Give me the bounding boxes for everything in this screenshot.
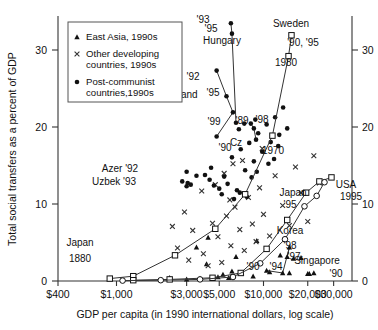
annotation-label: '94 xyxy=(269,261,282,272)
annotation-label: '90 xyxy=(246,261,259,272)
data-point xyxy=(180,179,185,184)
data-point xyxy=(273,173,278,178)
data-point xyxy=(249,121,254,126)
y-tick-label-30: 30 xyxy=(35,44,47,56)
data-point xyxy=(120,278,126,284)
y-tick-label-10: 10 xyxy=(35,198,47,210)
data-point xyxy=(278,253,283,258)
chart-svg: 0 10 20 30 0 10 20 30 $400$1,000$3,000$5… xyxy=(0,0,378,330)
data-point xyxy=(230,155,235,160)
data-point xyxy=(267,234,272,239)
data-point xyxy=(216,234,221,239)
annotation-label: '98 xyxy=(255,114,268,125)
legend-label-east-asia: East Asia, 1990s xyxy=(86,31,158,42)
data-point xyxy=(227,197,232,202)
y-axis-ticks-right: 0 10 20 30 xyxy=(352,44,374,287)
y-tick-right-label-20: 20 xyxy=(362,121,374,133)
y-tick-label-20: 20 xyxy=(35,121,47,133)
y-axis-ticks-left: 0 10 20 30 xyxy=(35,44,58,287)
data-point xyxy=(185,181,190,186)
x-tick-label-4: $10,000 xyxy=(245,288,283,300)
legend-label-other-developing-2: countries, 1990s xyxy=(86,59,157,70)
annotation-label: Sweden xyxy=(273,18,309,29)
data-point xyxy=(257,185,262,190)
annotation-label: '99 xyxy=(207,116,220,127)
annotation-label: '89 xyxy=(235,115,248,126)
data-point xyxy=(231,161,236,166)
data-point xyxy=(240,158,245,163)
data-point xyxy=(158,277,164,283)
annotation-label: Hungary xyxy=(203,35,241,46)
data-point xyxy=(214,68,219,73)
data-point xyxy=(229,269,234,274)
annotation-label: USA xyxy=(336,179,357,190)
annotation-label: '92 xyxy=(186,71,199,82)
data-point xyxy=(293,165,298,170)
y-tick-right-label-10: 10 xyxy=(362,198,374,210)
annotation-label: Uzbek '93 xyxy=(92,176,137,187)
data-point xyxy=(305,219,310,224)
data-point xyxy=(214,134,219,139)
annotation-label: 1980 xyxy=(275,57,298,68)
x-axis-ticks: $400$1,000$3,000$5,000$10,000$20,000$30,… xyxy=(46,281,352,300)
annotation-label: Azer '92 xyxy=(102,163,139,174)
data-point xyxy=(256,131,261,136)
data-point xyxy=(317,179,322,184)
x-tick-label-6: $30,000 xyxy=(315,288,353,300)
data-point xyxy=(311,270,316,275)
data-point xyxy=(252,159,257,164)
annotation-label: Japan xyxy=(66,237,93,248)
data-point xyxy=(237,127,242,132)
data-point xyxy=(107,276,112,281)
data-point xyxy=(311,153,316,158)
y-tick-right-label-0: 0 xyxy=(362,275,368,287)
series-azerbaijan-1992 xyxy=(184,169,189,174)
annotation-label: Cz xyxy=(230,137,242,148)
data-point xyxy=(205,235,210,240)
data-point xyxy=(194,174,199,179)
data-point xyxy=(232,197,237,202)
data-point xyxy=(230,274,236,280)
data-point xyxy=(201,251,206,256)
legend-label-other-developing: Other developing xyxy=(86,48,159,59)
data-point xyxy=(222,174,227,179)
data-point xyxy=(213,226,218,231)
data-point xyxy=(247,141,252,146)
annotation-label: Japan xyxy=(279,187,306,198)
legend-label-post-communist: Post-communist xyxy=(86,76,155,87)
data-point xyxy=(225,182,230,187)
data-point xyxy=(217,186,222,191)
data-point xyxy=(184,169,189,174)
data-point xyxy=(228,243,233,248)
chart-figure: 0 10 20 30 0 10 20 30 $400$1,000$3,000$5… xyxy=(0,0,378,330)
data-point xyxy=(219,260,224,265)
x-tick-label-3: $5,000 xyxy=(203,288,235,300)
data-point xyxy=(329,175,334,180)
annotation-label: Korea xyxy=(277,225,304,236)
y-tick-label-0: 0 xyxy=(41,275,47,287)
data-point xyxy=(182,210,187,215)
dot-marker-icon xyxy=(75,80,80,85)
x-tick-label-0: $400 xyxy=(46,288,70,300)
data-point xyxy=(270,133,275,138)
data-point xyxy=(252,126,257,131)
annotation-label: '90 xyxy=(329,268,342,279)
annotation-label: '95 xyxy=(204,23,217,34)
chart-legend: East Asia, 1990s Other developing countr… xyxy=(68,22,182,102)
data-point xyxy=(254,137,259,142)
data-point xyxy=(314,193,320,199)
annotation-label: '95 xyxy=(206,87,219,98)
x-axis-title: GDP per capita (in 1990 international do… xyxy=(76,308,333,320)
data-point xyxy=(302,204,308,210)
data-point xyxy=(277,133,282,138)
data-point xyxy=(167,277,172,282)
data-point xyxy=(285,126,290,131)
data-point xyxy=(224,94,229,99)
data-point xyxy=(264,246,269,251)
data-point xyxy=(197,277,203,283)
data-point xyxy=(210,275,215,280)
data-point xyxy=(199,189,204,194)
data-point xyxy=(233,254,238,259)
data-point xyxy=(242,192,247,197)
data-point xyxy=(186,258,191,263)
